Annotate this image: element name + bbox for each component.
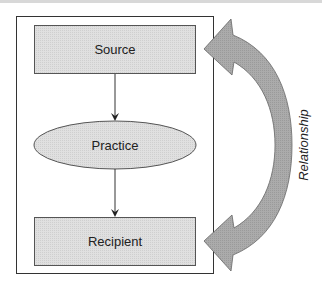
practice-label: Practice [92,138,139,153]
relationship-label: Relationship [296,109,311,181]
practice-node: Practice [34,121,196,169]
recipient-label: Recipient [88,234,143,249]
recipient-node: Recipient [35,218,196,266]
source-label: Source [94,42,135,57]
source-node: Source [35,26,196,74]
relationship-arrow-icon [204,19,292,271]
diagram-canvas: Source Practice Recipient Relationship [0,0,322,288]
